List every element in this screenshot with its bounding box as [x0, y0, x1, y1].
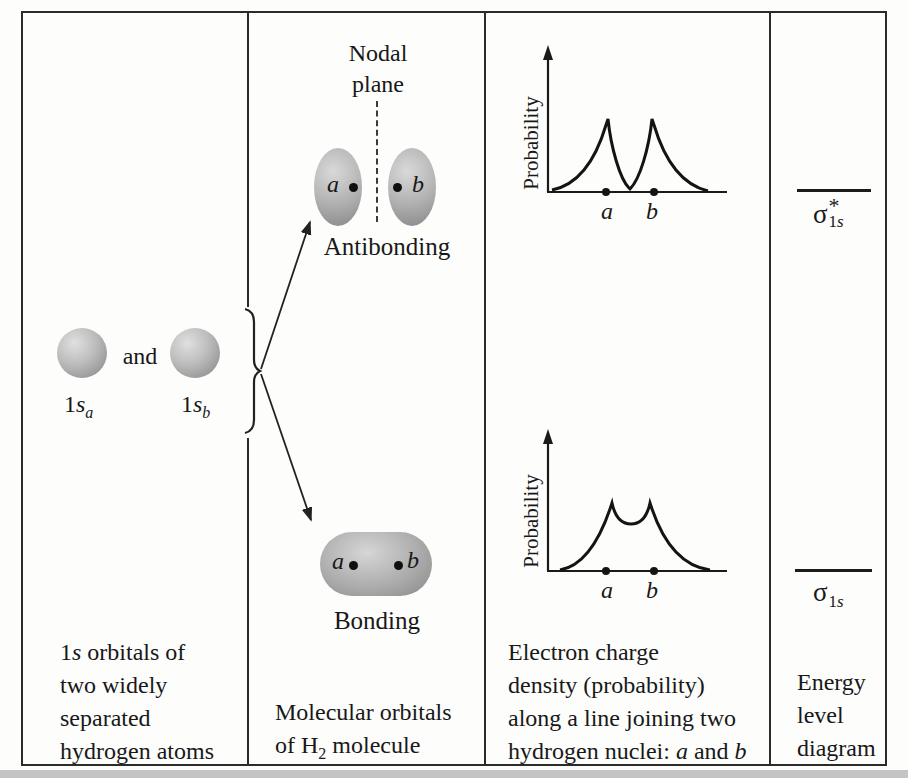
nodal-plane-label: Nodal plane: [330, 38, 426, 100]
plot-a-label: a: [601, 577, 613, 604]
sigma-energy-level-line: [795, 569, 872, 572]
probability-axis-label: Probability: [519, 78, 543, 208]
mo-diagram-figure: and 1sa 1sb 1s orbitals of two widely se…: [0, 0, 908, 778]
antibonding-label: Antibonding: [317, 230, 457, 263]
arrow-to-bonding: [261, 374, 311, 520]
bonding-probability-plot: [535, 425, 745, 610]
bonding-probability-curve: [560, 503, 710, 570]
caption-line: 1s orbitals of: [60, 636, 214, 669]
plot-b-label: b: [646, 577, 658, 604]
nucleus-b-dot: [650, 188, 658, 196]
subscript-1s: 1s: [829, 213, 844, 230]
caption-line: hydrogen nuclei: a and b: [508, 735, 747, 768]
caption-line: hydrogen atoms: [60, 735, 214, 768]
arrow-to-antibonding: [261, 222, 310, 369]
y-axis-arrow-icon: [543, 45, 553, 60]
page-edge-shadow: [0, 770, 908, 778]
star-superscript: *: [829, 199, 840, 211]
y-axis-arrow-icon: [543, 429, 553, 444]
antibonding-a-label: a: [327, 171, 339, 198]
probability-axis-label: Probability: [519, 456, 543, 586]
nucleus-a-dot: [349, 183, 358, 192]
bonding-label: Bonding: [317, 604, 437, 637]
sigma-char: σ: [813, 577, 828, 608]
antibonding-probability-plot: [535, 40, 745, 225]
sigma-star-1s-label: σ * 1s: [813, 199, 844, 230]
nodal-plane-dashed-line: [376, 101, 378, 222]
caption-line: density (probability): [508, 669, 747, 702]
caption-line: diagram: [797, 732, 876, 765]
antibonding-probability-curve: [552, 119, 708, 191]
column1-caption: 1s orbitals of two widely separated hydr…: [60, 636, 214, 768]
nucleus-a-dot: [349, 561, 358, 570]
column3-caption: Electron charge density (probability) al…: [508, 636, 747, 768]
bonding-b-label: b: [407, 547, 419, 574]
sigma-star-energy-level-line: [797, 189, 871, 192]
antibonding-b-label: b: [412, 171, 424, 198]
nucleus-a-dot: [602, 188, 610, 196]
column-divider-3: [769, 11, 771, 764]
nucleus-a-dot: [602, 567, 610, 575]
column4-caption: Energy level diagram: [797, 666, 876, 765]
caption-line: Electron charge: [508, 636, 747, 669]
column2-caption: Molecular orbitals of H2 molecule: [275, 696, 452, 770]
caption-line: Molecular orbitals: [275, 696, 452, 729]
column-divider-2: [484, 11, 486, 764]
plot-a-label: a: [601, 198, 613, 225]
nucleus-b-dot: [393, 183, 402, 192]
sigma-1s-label: σ 1s: [813, 577, 844, 610]
and-label: and: [120, 340, 160, 373]
bonding-a-label: a: [332, 548, 344, 575]
nodal-label-line1: Nodal: [330, 38, 426, 69]
nucleus-b-dot: [650, 567, 658, 575]
orbital-b-label: 1sb: [181, 388, 210, 429]
nodal-label-line2: plane: [330, 69, 426, 100]
caption-line: along a line joining two: [508, 702, 747, 735]
caption-line: Energy: [797, 666, 876, 699]
caption-line: of H2 molecule: [275, 729, 452, 770]
hydrogen-1s-orbital-b-sphere: [170, 328, 220, 378]
caption-line: level: [797, 699, 876, 732]
subscript-1s: 1s: [829, 593, 844, 610]
hydrogen-1s-orbital-a-sphere: [57, 328, 107, 378]
plot-b-label: b: [646, 198, 658, 225]
nucleus-b-dot: [394, 561, 403, 570]
sigma-char: σ: [813, 199, 828, 230]
caption-line: separated: [60, 702, 214, 735]
caption-line: two widely: [60, 669, 214, 702]
orbital-a-label: 1sa: [64, 388, 93, 429]
